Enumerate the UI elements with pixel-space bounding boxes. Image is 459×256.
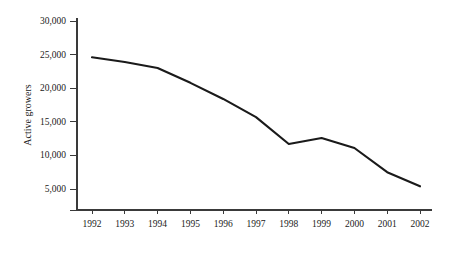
- x-tick-label-1999: 1999: [312, 219, 331, 229]
- y-axis-title: Active growers: [22, 84, 33, 145]
- x-tick-label-2002: 2002: [411, 219, 430, 229]
- x-tick-label-1996: 1996: [214, 219, 233, 229]
- y-tick-label-15000: 15,000: [40, 117, 66, 127]
- x-tick-label-2001: 2001: [378, 219, 397, 229]
- data-series-line: [92, 57, 420, 186]
- y-axis-ticks: [70, 21, 77, 210]
- y-tick-label-5000: 5,000: [45, 184, 67, 194]
- x-axis-ticks: [92, 210, 420, 214]
- x-tick-label-1997: 1997: [247, 219, 266, 229]
- x-axis-tick-labels: 1992 1993 1994 1995 1996 1997 1998 1999 …: [83, 219, 430, 229]
- x-tick-label-1992: 1992: [83, 219, 102, 229]
- y-tick-label-30000: 30,000: [40, 16, 66, 26]
- y-axis-title-group: Active growers: [22, 84, 33, 145]
- x-tick-label-1994: 1994: [148, 219, 167, 229]
- x-tick-label-1995: 1995: [181, 219, 200, 229]
- x-tick-label-2000: 2000: [345, 219, 364, 229]
- x-tick-label-1998: 1998: [279, 219, 298, 229]
- y-axis-tick-labels: 30,000 25,000 20,000 15,000 10,000 5,000: [40, 16, 66, 194]
- y-tick-label-20000: 20,000: [40, 83, 66, 93]
- x-tick-label-1993: 1993: [115, 219, 134, 229]
- line-chart: Active growers 30,000 25,000 20,000 15,0…: [0, 0, 459, 256]
- chart-figure: Active growers 30,000 25,000 20,000 15,0…: [0, 0, 459, 256]
- y-tick-label-10000: 10,000: [40, 150, 66, 160]
- y-tick-label-25000: 25,000: [40, 50, 66, 60]
